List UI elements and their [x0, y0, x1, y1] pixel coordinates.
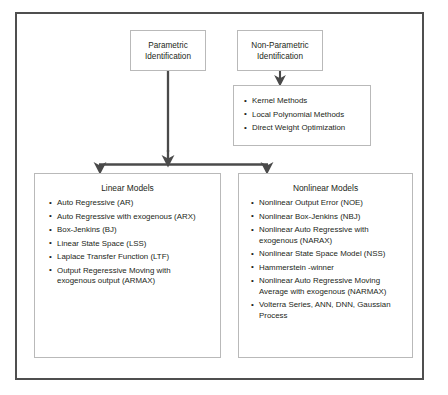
- nonlinear-model-item: Hammerstein -winner: [251, 263, 406, 273]
- linear-model-item: Auto Regressive (AR): [49, 198, 210, 208]
- node-nonparametric-methods[interactable]: Kernel MethodsLocal Polynomial MethodsDi…: [233, 85, 371, 146]
- parametric-label-line1: Parametric: [148, 41, 188, 50]
- linear-models-title: Linear Models: [35, 183, 220, 194]
- nonlinear-model-item: Nonlinear State Space Model (NSS): [251, 249, 406, 259]
- nonparametric-label-line1: Non-Parametric: [251, 41, 308, 50]
- nonparametric-label-line2: Identification: [257, 52, 303, 61]
- diagram-canvas: Parametric Identification Non-Parametric…: [0, 0, 448, 395]
- nonlinear-model-item: Nonlinear Output Error (NOE): [251, 198, 406, 208]
- linear-model-item: Laplace Transfer Function (LTF): [49, 252, 210, 262]
- node-nonparametric-identification-label: Non-Parametric Identification: [248, 40, 311, 62]
- nonlinear-model-item: Nonlinear Auto Regressive with exogenous…: [251, 225, 406, 246]
- nonparametric-methods-list: Kernel MethodsLocal Polynomial MethodsDi…: [234, 86, 370, 134]
- nonlinear-models-title: Nonlinear Models: [239, 183, 412, 194]
- node-parametric-identification[interactable]: Parametric Identification: [130, 30, 206, 71]
- nonlinear-model-item: Volterra Series, ANN, DNN, Gaussian Proc…: [251, 300, 406, 321]
- nonlinear-models-list: Nonlinear Output Error (NOE)Nonlinear Bo…: [239, 198, 412, 321]
- linear-model-item: Auto Regressive with exogenous (ARX): [49, 212, 210, 222]
- node-parametric-identification-label: Parametric Identification: [142, 40, 194, 62]
- nonparametric-method-item: Direct Weight Optimization: [244, 123, 370, 133]
- nonlinear-model-item: Nonlinear Auto Regressive Moving Average…: [251, 276, 406, 297]
- linear-models-list: Auto Regressive (AR)Auto Regressive with…: [35, 198, 220, 287]
- nonlinear-model-item: Nonlinear Box-Jenkins (NBJ): [251, 212, 406, 222]
- linear-model-item: Linear State Space (LSS): [49, 239, 210, 249]
- node-linear-models[interactable]: Linear Models Auto Regressive (AR)Auto R…: [34, 173, 221, 358]
- node-nonlinear-models[interactable]: Nonlinear Models Nonlinear Output Error …: [238, 173, 413, 358]
- parametric-label-line2: Identification: [145, 52, 191, 61]
- nonparametric-method-item: Local Polynomial Methods: [244, 110, 370, 120]
- node-nonparametric-identification[interactable]: Non-Parametric Identification: [237, 30, 323, 71]
- nonparametric-method-item: Kernel Methods: [244, 96, 370, 106]
- linear-model-item: Output Regeressive Moving with exogenous…: [49, 266, 210, 287]
- linear-model-item: Box-Jenkins (BJ): [49, 225, 210, 235]
